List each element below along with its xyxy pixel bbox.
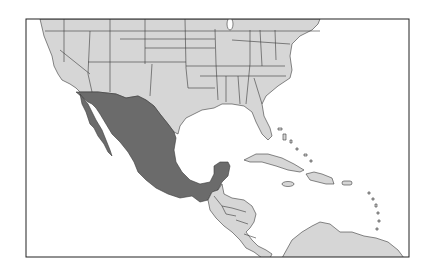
- puerto-rico: [342, 181, 352, 185]
- jamaica: [282, 182, 294, 187]
- locator-map: [0, 0, 421, 277]
- lake-michigan: [227, 18, 233, 30]
